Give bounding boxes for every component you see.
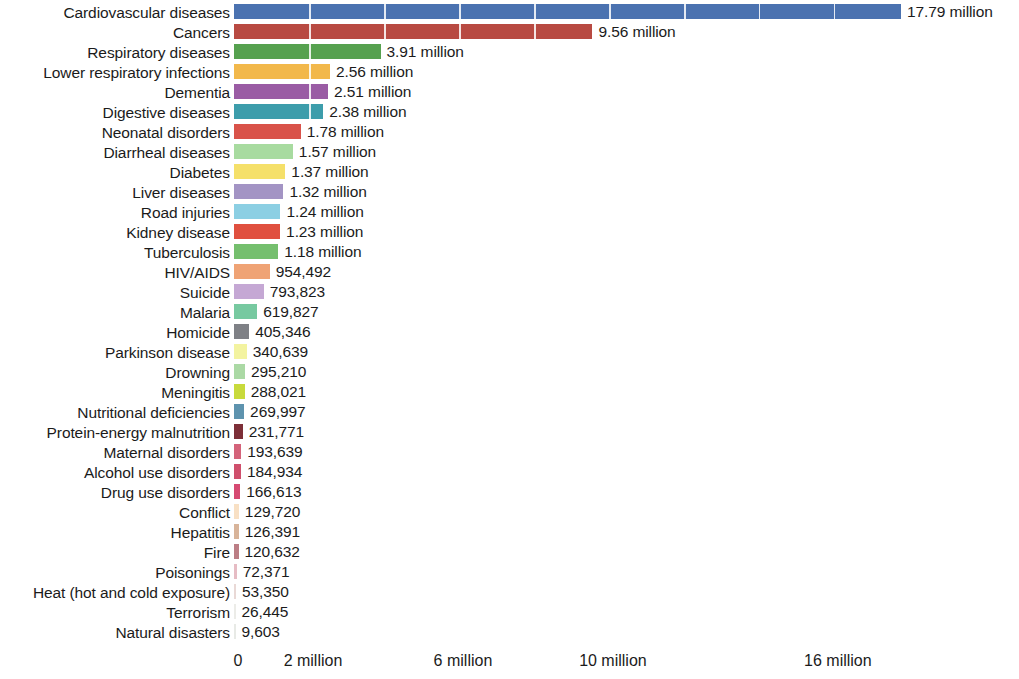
x-axis-tick-label: 16 million	[804, 651, 872, 671]
category-label: Digestive diseases	[0, 104, 234, 121]
bar-row: Cancers9.56 million	[0, 22, 1019, 42]
bar-row: Digestive diseases2.38 million	[0, 102, 1019, 122]
bar-row: Nutritional deficiencies269,997	[0, 402, 1019, 422]
value-label: 126,391	[245, 523, 300, 540]
gridline	[609, 4, 611, 19]
bar	[234, 324, 249, 339]
value-label: 3.91 million	[387, 43, 464, 60]
bar	[234, 524, 239, 539]
bar-row: Alcohol use disorders184,934	[0, 462, 1019, 482]
bar-track: 193,639	[234, 442, 1019, 462]
category-label: Natural disasters	[0, 624, 234, 641]
value-label: 1.32 million	[289, 183, 366, 200]
bar-row: Cardiovascular diseases17.79 million	[0, 2, 1019, 22]
gridline	[534, 4, 536, 19]
bar-track: 1.57 million	[234, 142, 1019, 162]
x-axis-tick-label: 10 million	[579, 651, 647, 671]
bar	[234, 464, 241, 479]
category-label: Suicide	[0, 284, 234, 301]
bar-track: 1.78 million	[234, 122, 1019, 142]
category-label: Cancers	[0, 24, 234, 41]
bar	[234, 504, 239, 519]
value-label: 954,492	[276, 263, 331, 280]
value-label: 26,445	[242, 603, 289, 620]
x-axis-tick-label: 6 million	[434, 651, 493, 671]
bar-track: 793,823	[234, 282, 1019, 302]
value-label: 295,210	[251, 363, 306, 380]
bar-track: 126,391	[234, 522, 1019, 542]
category-label: Meningitis	[0, 384, 234, 401]
gridline	[384, 24, 386, 39]
category-label: Lower respiratory infections	[0, 64, 234, 81]
bar	[234, 184, 283, 199]
bar-row: HIV/AIDS954,492	[0, 262, 1019, 282]
bar	[234, 584, 236, 599]
category-label: Hepatitis	[0, 524, 234, 541]
bar-track: 1.32 million	[234, 182, 1019, 202]
bar	[234, 24, 592, 39]
value-label: 72,371	[243, 563, 290, 580]
bar	[234, 44, 381, 59]
bar-row: Diarrheal diseases1.57 million	[0, 142, 1019, 162]
bar-row: Conflict129,720	[0, 502, 1019, 522]
category-label: Nutritional deficiencies	[0, 404, 234, 421]
category-label: HIV/AIDS	[0, 264, 234, 281]
bar-row: Meningitis288,021	[0, 382, 1019, 402]
value-label: 184,934	[247, 463, 302, 480]
bar	[234, 244, 278, 259]
category-label: Drowning	[0, 364, 234, 381]
bar	[234, 384, 245, 399]
bar-track: 184,934	[234, 462, 1019, 482]
bar-row: Poisonings72,371	[0, 562, 1019, 582]
x-axis: 02 million6 million10 million16 million	[0, 645, 1019, 679]
bar-row: Drug use disorders166,613	[0, 482, 1019, 502]
x-axis-tick-label: 0	[234, 651, 243, 671]
bar-row: Homicide405,346	[0, 322, 1019, 342]
bar-track: 129,720	[234, 502, 1019, 522]
value-label: 1.23 million	[286, 223, 363, 240]
value-label: 53,350	[242, 583, 289, 600]
bar-track: 619,827	[234, 302, 1019, 322]
bar-track: 1.37 million	[234, 162, 1019, 182]
x-axis-tick-label: 2 million	[284, 651, 343, 671]
bar-track: 954,492	[234, 262, 1019, 282]
value-label: 17.79 million	[907, 3, 993, 20]
category-label: Tuberculosis	[0, 244, 234, 261]
bar-row: Kidney disease1.23 million	[0, 222, 1019, 242]
category-label: Respiratory diseases	[0, 44, 234, 61]
bar-row: Malaria619,827	[0, 302, 1019, 322]
bar	[234, 424, 243, 439]
bar	[234, 64, 330, 79]
bar-track: 17.79 million	[234, 2, 1019, 22]
bar	[234, 484, 240, 499]
bar-row: Tuberculosis1.18 million	[0, 242, 1019, 262]
category-label: Homicide	[0, 324, 234, 341]
gridline	[309, 4, 311, 19]
gridline	[459, 24, 461, 39]
bar-track: 269,997	[234, 402, 1019, 422]
value-label: 793,823	[270, 283, 325, 300]
bar	[234, 164, 285, 179]
category-label: Drug use disorders	[0, 484, 234, 501]
bar	[234, 224, 280, 239]
bar	[234, 344, 247, 359]
bar-track: 1.18 million	[234, 242, 1019, 262]
bar-track: 2.51 million	[234, 82, 1019, 102]
bar-track: 3.91 million	[234, 42, 1019, 62]
category-label: Maternal disorders	[0, 444, 234, 461]
category-label: Neonatal disorders	[0, 124, 234, 141]
bar-row: Neonatal disorders1.78 million	[0, 122, 1019, 142]
bar	[234, 84, 328, 99]
bar-track: 53,350	[234, 582, 1019, 602]
bar	[234, 264, 270, 279]
gridline	[309, 24, 311, 39]
bar-track: 1.23 million	[234, 222, 1019, 242]
bar	[234, 4, 901, 19]
value-label: 193,639	[247, 443, 302, 460]
bar-row: Respiratory diseases3.91 million	[0, 42, 1019, 62]
value-label: 269,997	[250, 403, 305, 420]
bar-track: 288,021	[234, 382, 1019, 402]
bar-row: Drowning295,210	[0, 362, 1019, 382]
category-label: Poisonings	[0, 564, 234, 581]
bar	[234, 544, 239, 559]
